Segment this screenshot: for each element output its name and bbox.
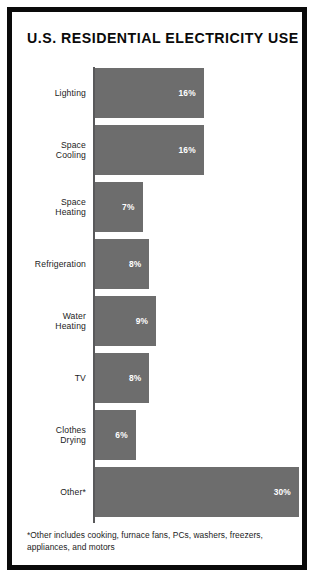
- poster-inner: U.S. RESIDENTIAL ELECTRICITY USE Lightin…: [12, 12, 302, 565]
- chart-bar: 30%: [95, 467, 299, 517]
- bar-value-label: 9%: [136, 316, 157, 326]
- chart-bar: 16%: [95, 125, 204, 175]
- chart-bar: 7%: [95, 182, 143, 232]
- chart-bar-row: SpaceHeating7%: [12, 182, 302, 232]
- bar-category-label-line1: Lighting: [55, 88, 86, 98]
- bar-chart: Lighting16%SpaceCooling16%SpaceHeating7%…: [12, 59, 302, 517]
- page-title: U.S. RESIDENTIAL ELECTRICITY USE: [27, 30, 299, 46]
- bar-category-label-line2: Heating: [12, 207, 86, 218]
- bar-category-label-line1: Space: [61, 140, 86, 150]
- bar-category-label: SpaceHeating: [12, 197, 86, 218]
- bar-category-label-line2: Heating: [12, 321, 86, 332]
- chart-bar-row: ClothesDrying6%: [12, 410, 302, 460]
- bar-category-label: Lighting: [12, 88, 86, 99]
- bar-value-label: 16%: [178, 88, 203, 98]
- bar-value-label: 30%: [274, 487, 299, 497]
- bar-category-label: SpaceCooling: [12, 140, 86, 161]
- bar-category-label-line1: TV: [75, 373, 86, 383]
- bar-category-label: TV: [12, 373, 86, 384]
- bar-category-label-line1: Refrigeration: [35, 259, 86, 269]
- chart-bar-row: Lighting16%: [12, 68, 302, 118]
- bar-category-label-line1: Other*: [60, 487, 86, 497]
- bar-category-label-line1: Water: [63, 311, 86, 321]
- bar-category-label-line2: Drying: [12, 435, 86, 446]
- chart-bar-row: WaterHeating9%: [12, 296, 302, 346]
- chart-bar-row: Other*30%: [12, 467, 302, 517]
- bar-value-label: 6%: [115, 430, 136, 440]
- bar-value-label: 7%: [122, 202, 143, 212]
- chart-bar: 6%: [95, 410, 136, 460]
- bar-category-label: WaterHeating: [12, 311, 86, 332]
- chart-bar: 8%: [95, 353, 149, 403]
- chart-bar-row: Refrigeration8%: [12, 239, 302, 289]
- bar-category-label: Refrigeration: [12, 259, 86, 270]
- chart-bar-row: TV8%: [12, 353, 302, 403]
- bar-category-label-line1: Space: [61, 197, 86, 207]
- chart-bar: 8%: [95, 239, 149, 289]
- bar-category-label-line2: Cooling: [12, 150, 86, 161]
- chart-bar: 9%: [95, 296, 156, 346]
- bar-value-label: 8%: [129, 373, 150, 383]
- bar-category-label: ClothesDrying: [12, 425, 86, 446]
- chart-bar-row: SpaceCooling16%: [12, 125, 302, 175]
- chart-footnote: *Other includes cooking, furnace fans, P…: [27, 530, 292, 553]
- poster-frame: U.S. RESIDENTIAL ELECTRICITY USE Lightin…: [7, 7, 307, 570]
- chart-rows: Lighting16%SpaceCooling16%SpaceHeating7%…: [12, 59, 302, 517]
- chart-bar: 16%: [95, 68, 204, 118]
- bar-value-label: 8%: [129, 259, 150, 269]
- bar-value-label: 16%: [178, 145, 203, 155]
- bar-category-label: Other*: [12, 487, 86, 498]
- bar-category-label-line1: Clothes: [56, 425, 86, 435]
